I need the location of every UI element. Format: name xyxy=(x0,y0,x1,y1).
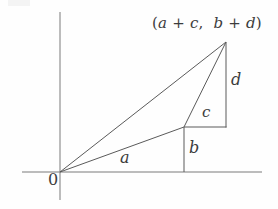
coord-plus-1: + xyxy=(167,14,190,32)
origin-label: 0 xyxy=(48,172,58,188)
vector-addition-figure: 0 a b c d (a + c, b + d) xyxy=(0,0,278,209)
coord-comma: , xyxy=(199,14,214,32)
coord-b: b xyxy=(213,14,223,32)
segment-label-d: d xyxy=(231,72,241,88)
coord-d: d xyxy=(246,14,256,32)
coord-plus-2: + xyxy=(223,14,246,32)
segment-label-b: b xyxy=(189,140,199,156)
segment-label-c: c xyxy=(202,105,210,120)
coord-a: a xyxy=(158,14,167,32)
coord-c: c xyxy=(190,14,199,32)
segment-label-a: a xyxy=(120,150,130,166)
apex-coordinate-label: (a + c, b + d) xyxy=(152,16,262,31)
paren-close: ) xyxy=(256,14,262,32)
